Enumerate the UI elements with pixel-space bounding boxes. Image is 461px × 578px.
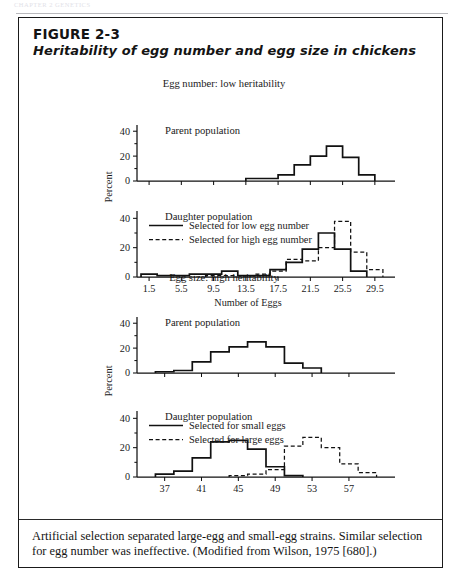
series-parent [155,342,321,373]
legend-solid-label: Selected for small eggs [189,420,286,431]
legend-dashed-label: Selected for high egg number [189,234,312,245]
x-tick-label: 29.5 [366,283,384,294]
x-tick-label: 57 [344,483,354,494]
x-tick-label: 53 [307,483,317,494]
x-tick-label: 5.5 [175,283,188,294]
figure-caption: Artificial selection separated large-egg… [32,529,430,560]
x-tick-label: 13.5 [237,283,255,294]
y-tick-label: 40 [120,212,130,223]
figure-number: FIGURE 2-3 [33,27,442,42]
x-tick-label: 41 [196,483,206,494]
x-tick-label: 37 [160,483,170,494]
panel-label: Parent population [165,125,241,136]
x-tick-label: 1.5 [143,283,156,294]
caption-divider [19,519,442,520]
figure-title: Heritability of egg number and egg size … [33,43,442,59]
y-tick-label: 40 [120,125,130,136]
y-tick-label: 40 [120,412,130,423]
top-rule [16,13,448,14]
y-tick-label: 0 [125,175,130,186]
x-tick-label: 17.5 [269,283,287,294]
legend-dashed-label: Selected for large eggs [189,434,284,445]
y-tick-label: 20 [120,150,130,161]
figure-header: FIGURE 2-3 Heritability of egg number an… [19,18,442,59]
running-head: CHAPTER 2 GENETICS [14,1,91,8]
x-axis-label: Average Egg Weight, g [201,497,295,499]
x-tick-label: 49 [270,483,280,494]
egg-number-heading: Egg number: low heritability [163,78,286,89]
figure-box: FIGURE 2-3 Heritability of egg number an… [18,17,443,568]
legend-solid-label: Selected for low egg number [189,220,310,231]
x-tick-label: 21.5 [301,283,319,294]
y-tick-label: 0 [125,471,130,482]
x-axis-label: Number of Eggs [214,297,281,308]
x-tick-label: 25.5 [334,283,352,294]
charts-container: Egg number: low heritabilityEgg size: hi… [19,59,442,499]
series-1-solid [155,440,302,477]
histogram-charts: Egg number: low heritabilityEgg size: hi… [19,59,442,499]
y-tick-label: 40 [120,317,130,328]
y-tick-label: 20 [120,342,130,353]
y-tick-label: 20 [120,442,130,453]
y-axis-label-top: Percent [103,171,114,202]
y-axis-label-bottom: Percent [103,365,114,396]
chart-egg-number-daughter: 02040Daughter population1.55.59.513.517.… [120,211,395,308]
y-tick-label: 0 [125,367,130,378]
y-tick-label: 0 [125,271,130,282]
figure-page: CHAPTER 2 GENETICS FIGURE 2-3 Heritabili… [0,0,461,578]
x-tick-label: 9.5 [207,283,220,294]
panel-label: Parent population [165,317,241,328]
chart-egg-size-daughter: 02040Daughter population374145495357Aver… [120,411,395,499]
y-tick-label: 20 [120,242,130,253]
plot-area: Egg number: low heritabilityEgg size: hi… [19,59,442,499]
series-parent [246,146,375,181]
chart-egg-number-parent: 02040Parent population [120,125,395,186]
x-tick-label: 45 [233,483,243,494]
chart-egg-size-parent: 02040Parent population [120,317,395,378]
